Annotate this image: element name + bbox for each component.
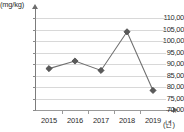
data-point-marker[interactable] [150, 87, 156, 93]
x-tick-label: 2019 [138, 116, 168, 125]
data-point-marker[interactable] [124, 29, 130, 35]
y-axis-unit-label: (mg/kg) [0, 0, 24, 9]
x-tick-mark [114, 111, 115, 114]
series-polyline [49, 32, 153, 91]
y-axis-arrow-icon [32, 4, 38, 9]
x-tick-mark [140, 111, 141, 114]
plot-area [36, 18, 166, 110]
data-point-marker[interactable] [72, 58, 78, 64]
data-point-marker[interactable] [46, 66, 52, 72]
series-line [36, 18, 166, 110]
x-tick-mark [62, 111, 63, 114]
gridline [36, 110, 166, 111]
data-point-marker[interactable] [98, 67, 104, 73]
line-chart: (mg/kg) (년) 110,00105,00100,0095,0090,00… [0, 0, 184, 132]
x-tick-mark [88, 111, 89, 114]
